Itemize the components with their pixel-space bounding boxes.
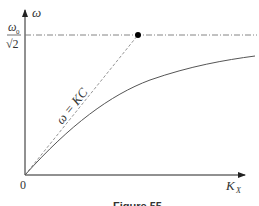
diagram: ω ω 0 √2 ω = KC 0 K X Figure 55	[0, 0, 259, 206]
figure-caption: Figure 55	[113, 200, 162, 206]
y-tick-denominator: √2	[6, 37, 19, 51]
x-axis-label-sub: X	[235, 186, 242, 195]
intersection-point	[135, 32, 141, 38]
x-axis-label: K	[225, 178, 236, 193]
y-axis-label: ω	[32, 5, 41, 20]
asymptote-label: ω = KC	[53, 85, 91, 127]
origin-label: 0	[20, 178, 26, 192]
